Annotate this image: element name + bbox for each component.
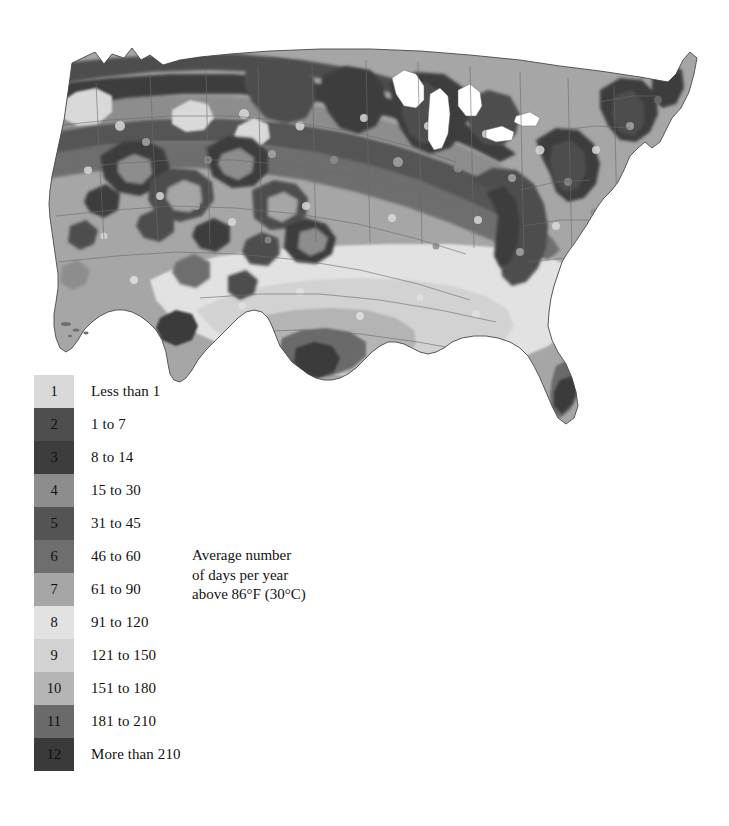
map-page: 1 Less than 1 2 1 to 7 3 8 to 14 4 15 to… <box>0 0 729 826</box>
legend-label-2: 1 to 7 <box>74 408 334 441</box>
legend-label-11: 181 to 210 <box>74 705 334 738</box>
legend-label-4: 15 to 30 <box>74 474 334 507</box>
legend-index-1: 1 <box>34 384 74 399</box>
legend-label-1: Less than 1 <box>74 375 334 408</box>
legend-index-4: 4 <box>34 483 74 498</box>
legend-row[interactable]: 2 1 to 7 <box>34 408 334 441</box>
legend-row[interactable]: 3 8 to 14 <box>34 441 334 474</box>
legend-swatch-1: 1 <box>34 375 74 408</box>
legend-index-3: 3 <box>34 450 74 465</box>
legend-swatch-11: 11 <box>34 705 74 738</box>
legend-swatch-7: 7 <box>34 573 74 606</box>
legend-row[interactable]: 11 181 to 210 <box>34 705 334 738</box>
legend-swatch-12: 12 <box>34 738 74 771</box>
legend-index-5: 5 <box>34 516 74 531</box>
legend-label-9: 121 to 150 <box>74 639 334 672</box>
legend-row[interactable]: 1 Less than 1 <box>34 375 334 408</box>
legend-label-3: 8 to 14 <box>74 441 334 474</box>
legend-index-8: 8 <box>34 615 74 630</box>
legend-index-11: 11 <box>34 714 74 729</box>
legend-label-5: 31 to 45 <box>74 507 334 540</box>
legend-index-7: 7 <box>34 582 74 597</box>
legend-row[interactable]: 5 31 to 45 <box>34 507 334 540</box>
legend-swatch-10: 10 <box>34 672 74 705</box>
legend-swatch-4: 4 <box>34 474 74 507</box>
map-caption: Average number of days per year above 86… <box>192 546 306 605</box>
legend-swatch-3: 3 <box>34 441 74 474</box>
legend-swatch-5: 5 <box>34 507 74 540</box>
legend-row[interactable]: 9 121 to 150 <box>34 639 334 672</box>
legend-swatch-2: 2 <box>34 408 74 441</box>
legend-swatch-8: 8 <box>34 606 74 639</box>
legend-index-10: 10 <box>34 681 74 696</box>
legend-label-12: More than 210 <box>74 738 334 771</box>
legend-index-6: 6 <box>34 549 74 564</box>
caption-line-3: above 86°F (30°C) <box>192 585 306 605</box>
legend-index-9: 9 <box>34 648 74 663</box>
legend-index-2: 2 <box>34 417 74 432</box>
legend-label-10: 151 to 180 <box>74 672 334 705</box>
legend-row[interactable]: 4 15 to 30 <box>34 474 334 507</box>
legend-label-8: 91 to 120 <box>74 606 334 639</box>
legend-row[interactable]: 10 151 to 180 <box>34 672 334 705</box>
caption-line-1: Average number <box>192 546 306 566</box>
legend-swatch-9: 9 <box>34 639 74 672</box>
legend-swatch-6: 6 <box>34 540 74 573</box>
legend-index-12: 12 <box>34 747 74 762</box>
caption-line-2: of days per year <box>192 566 306 586</box>
legend-row[interactable]: 8 91 to 120 <box>34 606 334 639</box>
legend-row[interactable]: 12 More than 210 <box>34 738 334 771</box>
